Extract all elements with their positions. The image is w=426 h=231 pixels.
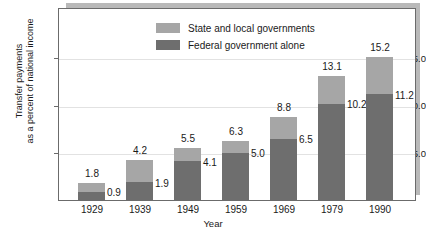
bar-segment-state-1969 bbox=[270, 117, 297, 139]
bar-segment-state-1990 bbox=[366, 57, 393, 95]
bar-segment-state-1939 bbox=[126, 160, 153, 182]
x-tick-label-1990: 1990 bbox=[356, 204, 404, 215]
bar-group-1979[interactable]: 13.1 10.2 bbox=[318, 76, 345, 200]
x-axis-title: Year bbox=[0, 218, 426, 229]
x-tick-label-1959: 1959 bbox=[212, 204, 260, 215]
x-tick-label-1939: 1939 bbox=[116, 204, 164, 215]
bar-segment-federal-1949 bbox=[174, 161, 201, 200]
legend-swatch-state-icon bbox=[156, 23, 180, 33]
y-axis-title: Transfer payments as a percent of nation… bbox=[14, 0, 36, 166]
bar-segment-federal-1929 bbox=[78, 192, 105, 201]
x-tick-label-1979: 1979 bbox=[308, 204, 356, 215]
legend-label-state: State and local governments bbox=[188, 23, 315, 34]
legend-swatch-federal-icon bbox=[156, 40, 180, 50]
bar-total-label-1929: 1.8 bbox=[70, 168, 114, 179]
bar-federal-label-1949: 4.1 bbox=[203, 157, 217, 168]
bar-total-label-1990: 15.2 bbox=[358, 42, 402, 53]
bar-group-1929[interactable]: 1.8 0.9 bbox=[78, 183, 105, 200]
bar-segment-federal-1959 bbox=[222, 153, 249, 200]
bar-segment-federal-1990 bbox=[366, 94, 393, 200]
bar-segment-state-1929 bbox=[78, 183, 105, 192]
bar-total-label-1969: 8.8 bbox=[262, 102, 306, 113]
bar-total-label-1979: 13.1 bbox=[310, 61, 354, 72]
plot-area: State and local governments Federal gove… bbox=[58, 8, 416, 201]
bar-total-label-1939: 4.2 bbox=[118, 145, 162, 156]
bar-segment-federal-1979 bbox=[318, 104, 345, 200]
x-tick-label-1929: 1929 bbox=[68, 204, 116, 215]
legend-item-federal[interactable]: Federal government alone bbox=[156, 38, 315, 52]
x-tick-label-1969: 1969 bbox=[260, 204, 308, 215]
bar-segment-federal-1939 bbox=[126, 182, 153, 200]
bar-segment-state-1979 bbox=[318, 76, 345, 103]
bar-federal-label-1969: 6.5 bbox=[299, 134, 313, 145]
bar-total-label-1949: 5.5 bbox=[166, 133, 210, 144]
gridline-15 bbox=[59, 59, 415, 60]
bar-group-1949[interactable]: 5.5 4.1 bbox=[174, 148, 201, 200]
bar-federal-label-1929: 0.9 bbox=[107, 187, 121, 198]
bar-federal-label-1990: 11.2 bbox=[395, 90, 414, 101]
bar-group-1939[interactable]: 4.2 1.9 bbox=[126, 160, 153, 200]
bar-total-label-1959: 6.3 bbox=[214, 126, 258, 137]
bar-group-1990[interactable]: 15.2 11.2 bbox=[366, 57, 393, 200]
chart-figure: Transfer payments as a percent of nation… bbox=[0, 0, 426, 231]
bar-segment-state-1959 bbox=[222, 141, 249, 153]
bar-group-1959[interactable]: 6.3 5.0 bbox=[222, 141, 249, 200]
bar-segment-state-1949 bbox=[174, 148, 201, 161]
bar-group-1969[interactable]: 8.8 6.5 bbox=[270, 117, 297, 200]
bar-segment-federal-1969 bbox=[270, 139, 297, 200]
x-tick-label-1949: 1949 bbox=[164, 204, 212, 215]
legend: State and local governments Federal gove… bbox=[156, 21, 315, 55]
bar-federal-label-1959: 5.0 bbox=[251, 148, 265, 159]
bar-federal-label-1979: 10.2 bbox=[347, 99, 366, 110]
legend-item-state[interactable]: State and local governments bbox=[156, 21, 315, 35]
bar-federal-label-1939: 1.9 bbox=[155, 178, 169, 189]
legend-label-federal: Federal government alone bbox=[188, 40, 305, 51]
